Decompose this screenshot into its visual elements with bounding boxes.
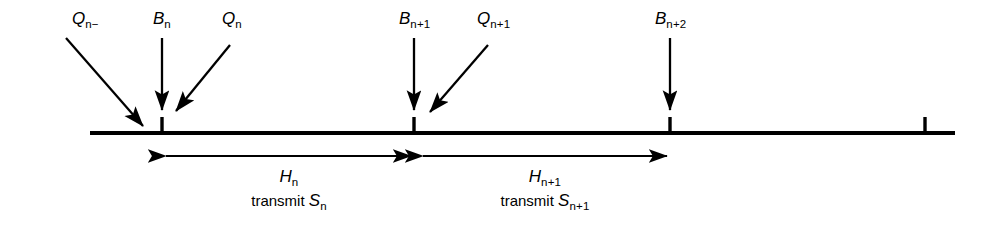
arrow-q-n <box>176 45 230 111</box>
interval-caption-hn1-sub: n+1 <box>569 200 589 212</box>
interval-caption-hn-base: S <box>309 191 320 210</box>
label-q-n-minus-base: Q <box>72 9 85 28</box>
label-q-n-minus-sub: n− <box>85 18 99 30</box>
label-q-n-plus-1-sub: n+1 <box>490 18 510 30</box>
interval-caption-hn1-base: S <box>558 191 569 210</box>
label-q-n-plus-1-base: Q <box>477 9 490 28</box>
label-b-n-plus-1-base: B <box>399 9 410 28</box>
label-b-n: Bn <box>153 10 171 27</box>
interval-caption-hn1: transmit Sn+1 <box>501 192 590 209</box>
label-q-n: Qn <box>222 10 242 27</box>
interval-caption-hn-prefix: transmit <box>251 192 309 209</box>
label-b-n-base: B <box>153 9 164 28</box>
label-b-n-sub: n <box>164 18 171 30</box>
interval-label-hn1: Hn+1 <box>529 168 561 185</box>
interval-label-hn: Hn <box>280 168 299 185</box>
label-b-n-plus-2-base: B <box>655 9 666 28</box>
label-b-n-plus-2-sub: n+2 <box>666 18 686 30</box>
label-q-n-plus-1: Qn+1 <box>477 10 510 27</box>
interval-label-hn-base: H <box>280 167 292 186</box>
label-b-n-plus-2: Bn+2 <box>655 10 686 27</box>
arrow-q-n-plus-1 <box>430 45 488 112</box>
interval-label-hn1-base: H <box>529 167 541 186</box>
label-q-n-base: Q <box>222 9 235 28</box>
interval-caption-hn1-prefix: transmit <box>501 192 559 209</box>
label-b-n-plus-1: Bn+1 <box>399 10 430 27</box>
arrow-q-n-minus <box>66 38 143 126</box>
interval-label-hn-sub: n <box>292 176 299 188</box>
label-b-n-plus-1-sub: n+1 <box>410 18 430 30</box>
timing-diagram-figure: Qn− Bn Qn Bn+1 Qn+1 Bn+2 Hn transmit Sn … <box>0 0 1001 240</box>
interval-caption-hn: transmit Sn <box>251 192 326 209</box>
label-q-n-minus: Qn− <box>72 10 99 27</box>
interval-caption-hn-sub: n <box>320 200 327 212</box>
interval-label-hn1-sub: n+1 <box>541 176 561 188</box>
label-q-n-sub: n <box>235 18 242 30</box>
